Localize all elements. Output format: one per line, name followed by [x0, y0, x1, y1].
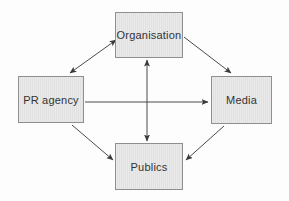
node-organisation-label: Organisation: [117, 29, 182, 41]
node-pr-agency-label: PR agency: [23, 94, 79, 106]
diagram-canvas: Organisation PR agency Media Publics: [0, 0, 289, 201]
node-publics: Publics: [115, 143, 183, 190]
arrow-media-publics: [186, 126, 224, 160]
node-pr-agency: PR agency: [18, 76, 84, 123]
node-media-label: Media: [226, 94, 257, 106]
arrow-pr-agency-publics: [72, 125, 113, 160]
node-publics-label: Publics: [131, 161, 168, 173]
node-organisation: Organisation: [115, 12, 183, 58]
node-media: Media: [211, 76, 272, 124]
arrow-organisation-media: [184, 37, 231, 73]
arrow-pr-agency-organisation-two-way: [70, 40, 116, 73]
